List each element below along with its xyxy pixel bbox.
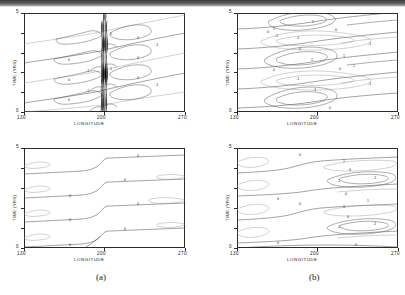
x-tick-label-right: 270	[391, 115, 400, 120]
y-axis-label: TIME (YRS)	[12, 60, 17, 86]
contour-label: 0	[273, 68, 275, 72]
y-tick-label-max: 5	[229, 144, 232, 149]
x-tick-label-right: 270	[391, 251, 400, 256]
y-tick-label-min: 0	[229, 244, 232, 249]
contour-label: 1	[353, 64, 355, 68]
x-tick-label-left: 130	[17, 115, 26, 120]
y-tick-label-max: 5	[229, 9, 232, 14]
contour-label: 1	[110, 32, 112, 36]
contours-top-right: 1 1 1 1 1 -1 -1 -1 -1 -1 0 0 0 0 0 0 -1	[237, 13, 398, 112]
contour-label: 0	[68, 98, 70, 102]
contour-label: 0	[277, 241, 279, 245]
contour-label: 1	[311, 58, 313, 62]
contour-label: 1	[110, 67, 112, 71]
x-tick-label-mid: 200	[97, 115, 106, 120]
x-tick-label-right: 270	[178, 115, 187, 120]
contour-label: 0	[137, 202, 139, 206]
contour-label: -1	[337, 225, 340, 229]
contour-label: 0	[277, 197, 279, 201]
y-tick	[21, 208, 24, 209]
contour-label: 0	[124, 227, 126, 231]
y-tick	[21, 53, 24, 54]
contour-label: -1	[337, 179, 340, 183]
contour-label: 0	[68, 58, 70, 62]
contour-label: 1	[367, 199, 369, 203]
x-tick-label-left: 130	[230, 251, 239, 256]
contour-label: 0	[335, 28, 337, 32]
y-tick	[21, 228, 24, 229]
y-tick	[234, 208, 237, 209]
contour-label: -1	[86, 89, 89, 93]
y-tick	[234, 72, 237, 73]
y-axis-label: TIME (YRS)	[225, 60, 230, 86]
contour-label: -1	[368, 82, 371, 86]
contour-label: -1	[313, 88, 316, 92]
y-tick	[234, 92, 237, 93]
contour-label: -1	[373, 176, 376, 180]
contour-label: 0	[137, 76, 139, 80]
contour-label: 1	[343, 159, 345, 163]
contour-label: 0	[69, 194, 71, 198]
contours-bottom-left: 0 0 0 0 0 0 0	[24, 148, 185, 248]
contour-label: -1	[155, 83, 158, 87]
caption-a: (a)	[96, 272, 106, 282]
contour-label: -1	[275, 34, 278, 38]
contour-label: -1	[155, 43, 158, 47]
contour-label: -1	[368, 42, 371, 46]
y-tick	[234, 168, 237, 169]
contour-label: 0	[137, 36, 139, 40]
y-tick	[21, 148, 24, 149]
contour-label: 0	[137, 56, 139, 60]
x-tick-label-left: 130	[17, 251, 26, 256]
x-axis-label: LONGITUDE	[74, 257, 105, 262]
contour-label: 0	[329, 106, 331, 110]
contour-label: 1	[312, 20, 314, 24]
y-tick-label-max: 5	[16, 144, 19, 149]
contour-label: 0	[347, 215, 349, 219]
contour-label: 0	[299, 47, 301, 51]
y-tick-label-max: 5	[16, 9, 19, 14]
contour-label: 0	[69, 243, 71, 247]
y-tick	[21, 72, 24, 73]
contour-label: 0	[267, 30, 269, 34]
x-tick-label-mid: 200	[310, 251, 319, 256]
contour-label: 0	[349, 168, 351, 172]
contour-label: 0	[124, 178, 126, 182]
x-axis-label: LONGITUDE	[74, 121, 105, 126]
y-tick	[21, 13, 24, 14]
y-tick	[234, 33, 237, 34]
scan-artifact-band	[0, 0, 405, 7]
contour-label: -1	[86, 69, 89, 73]
contour-label: -1	[296, 36, 299, 40]
contours-bottom-right: 0 0 0 0 0 0 0 0 1 1 1 -1 -1 -1 -1	[237, 148, 398, 248]
y-tick	[234, 148, 237, 149]
contour-label: 0	[137, 154, 139, 158]
contour-label: -1	[373, 222, 376, 226]
x-tick-label-mid: 200	[97, 251, 106, 256]
caption-b: (b)	[309, 272, 320, 282]
contour-label: 0	[345, 192, 347, 196]
y-tick-label-min: 0	[16, 108, 19, 113]
contour-label: 1	[273, 27, 275, 31]
y-tick-label-min: 0	[16, 244, 19, 249]
contour-label: 1	[343, 54, 345, 58]
x-tick-label-right: 270	[178, 251, 187, 256]
contours-top-left: 0 0 0 0 0 0 -1 -1 -1 -1 1 1	[24, 13, 185, 112]
contour-label: 0	[299, 202, 301, 206]
y-axis-label: TIME (YRS)	[12, 195, 17, 221]
x-axis-label: LONGITUDE	[287, 257, 318, 262]
x-tick-label-left: 130	[230, 115, 239, 120]
y-tick	[21, 92, 24, 93]
x-tick-label-mid: 200	[310, 115, 319, 120]
y-tick	[234, 13, 237, 14]
contour-label: 1	[343, 205, 345, 209]
y-tick	[234, 53, 237, 54]
contour-label: 0	[68, 78, 70, 82]
contour-label: 0	[299, 153, 301, 157]
y-tick	[234, 188, 237, 189]
y-tick	[21, 33, 24, 34]
y-tick	[21, 168, 24, 169]
contour-label: 0	[355, 243, 357, 247]
x-axis-label: LONGITUDE	[287, 121, 318, 126]
contour-label: 0	[69, 218, 71, 222]
